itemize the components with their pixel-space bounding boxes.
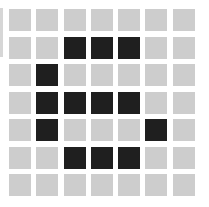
grid-cell-r5-c4[interactable] [91,119,113,141]
grid-cell-r6-c4[interactable] [91,147,113,169]
grid-cell-r2-c3[interactable] [64,37,86,59]
grid-cell-r1-c6[interactable] [145,9,167,31]
grid-cell-r1-c1[interactable] [9,9,31,31]
grid-cell-r2-c2[interactable] [36,37,58,59]
grid-cell-r2-c7[interactable] [173,37,195,59]
grid-cell-r4-c7[interactable] [173,92,195,114]
grid-cell-r6-c6[interactable] [145,147,167,169]
grid-cell-r7-c2[interactable] [36,174,58,196]
grid-cell-r6-c1[interactable] [9,147,31,169]
grid-cell-r5-c7[interactable] [173,119,195,141]
grid-cell-r7-c3[interactable] [64,174,86,196]
grid-cell-r7-c7[interactable] [173,174,195,196]
grid-cell-r4-c3[interactable] [64,92,86,114]
grid-cell-r4-c5[interactable] [118,92,140,114]
grid-cell-r3-c4[interactable] [91,64,113,86]
grid-cell-r1-c5[interactable] [118,9,140,31]
grid-cell-r2-c1[interactable] [9,37,31,59]
grid-cell-r7-c5[interactable] [118,174,140,196]
grid-cell-r6-c7[interactable] [173,147,195,169]
grid-cell-r3-c2[interactable] [36,64,58,86]
grid-cell-r7-c4[interactable] [91,174,113,196]
grid-cell-r5-c1[interactable] [9,119,31,141]
grid-cell-r4-c6[interactable] [145,92,167,114]
grid-cell-r3-c1[interactable] [9,64,31,86]
grid-cell-r5-c3[interactable] [64,119,86,141]
grid-cell-r4-c2[interactable] [36,92,58,114]
grid-cell-r7-c1[interactable] [9,174,31,196]
grid-cell-r1-c4[interactable] [91,9,113,31]
grid-cell-r2-c4[interactable] [91,37,113,59]
grid-cell-r5-c5[interactable] [118,119,140,141]
grid-cell-r3-c7[interactable] [173,64,195,86]
grid-cell-r6-c3[interactable] [64,147,86,169]
grid-cell-r3-c6[interactable] [145,64,167,86]
grid-cell-r3-c3[interactable] [64,64,86,86]
grid-cell-r2-c5[interactable] [118,37,140,59]
grid-cell-r5-c2[interactable] [36,119,58,141]
partial-column-edge [0,8,3,57]
grid-cell-r4-c1[interactable] [9,92,31,114]
grid-cell-r4-c4[interactable] [91,92,113,114]
grid-cell-r1-c2[interactable] [36,9,58,31]
grid-cell-r2-c6[interactable] [145,37,167,59]
grid-cell-r6-c2[interactable] [36,147,58,169]
grid-cell-r6-c5[interactable] [118,147,140,169]
grid-cell-r3-c5[interactable] [118,64,140,86]
grid-cell-r1-c7[interactable] [173,9,195,31]
grid-cell-r5-c6[interactable] [145,119,167,141]
pixel-grid-board [9,9,195,196]
grid-cell-r1-c3[interactable] [64,9,86,31]
grid-cell-r7-c6[interactable] [145,174,167,196]
